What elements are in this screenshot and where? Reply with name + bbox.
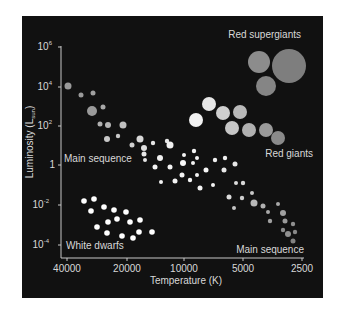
star-main-sequence [276, 202, 280, 206]
star-main-sequence [137, 136, 144, 143]
x-tick-label: 20000 [113, 263, 141, 274]
star-white-dwarf [114, 216, 120, 222]
star-main-sequence [151, 141, 155, 145]
x-tick-label: 40000 [53, 263, 81, 274]
star-main-sequence [291, 239, 296, 244]
x-axis-ticks: 40000200001000050002500 [53, 258, 313, 274]
star-main-sequence [233, 162, 238, 167]
star-giant [189, 113, 203, 127]
star-main-sequence [182, 153, 186, 157]
star-white-dwarf [149, 229, 155, 235]
star-main-sequence [251, 200, 258, 207]
x-axis-label: Temperature (K) [150, 275, 222, 286]
star-main-sequence [101, 105, 106, 110]
star-main-sequence [291, 222, 295, 226]
star-main-sequence [157, 155, 163, 161]
star-supergiant [272, 49, 306, 83]
star-main-sequence [213, 158, 217, 162]
star-white-dwarf [94, 224, 100, 230]
red-supergiant-stars [248, 49, 306, 96]
star-main-sequence [285, 231, 291, 237]
star-white-dwarf [105, 219, 111, 225]
x-tick-label: 5000 [232, 263, 255, 274]
red-giant-stars [189, 97, 285, 145]
star-main-sequence [120, 122, 127, 129]
y-axis-ticks: 106104102110-210-4 [33, 40, 61, 250]
star-main-sequence [281, 228, 285, 232]
label-red-giants: Red giants [265, 148, 313, 159]
star-main-sequence [204, 168, 209, 173]
star-main-sequence [195, 173, 199, 177]
star-main-sequence [141, 145, 147, 151]
star-main-sequence [191, 161, 195, 165]
star-giant [271, 131, 285, 145]
star-main-sequence [222, 168, 227, 173]
star-main-sequence [98, 122, 103, 127]
star-main-sequence [227, 195, 232, 200]
star-main-sequence [153, 165, 158, 170]
star-main-sequence [142, 152, 147, 157]
star-main-sequence [143, 158, 147, 162]
star-main-sequence [91, 91, 96, 96]
star-white-dwarf [127, 219, 133, 225]
y-tick-label: 10-2 [33, 198, 50, 210]
hr-diagram-chart: 106104102110-210-4 400002000010000500025… [0, 0, 338, 315]
label-white-dwarfs: White dwarfs [66, 240, 124, 251]
star-white-dwarf [111, 207, 117, 213]
star-main-sequence [180, 160, 186, 166]
star-giant [259, 123, 273, 137]
star-main-sequence [116, 134, 120, 138]
label-main-sequence-lower: Main sequence [236, 244, 304, 255]
star-main-sequence [250, 191, 254, 195]
star-main-sequence [283, 219, 288, 224]
y-tick-label: 106 [38, 40, 53, 52]
star-main-sequence [280, 210, 286, 216]
star-supergiant [248, 51, 270, 73]
star-main-sequence [293, 230, 297, 234]
star-main-sequence [234, 181, 238, 185]
star-white-dwarf [91, 196, 97, 202]
star-main-sequence [223, 156, 227, 160]
label-main-sequence-upper: Main sequence [64, 153, 132, 164]
star-main-sequence [168, 165, 173, 170]
star-main-sequence [195, 156, 199, 160]
star-white-dwarf [123, 209, 129, 215]
star-main-sequence [180, 173, 185, 178]
star-main-sequence [105, 122, 111, 128]
star-supergiant [256, 76, 276, 96]
star-main-sequence [211, 183, 215, 187]
star-main-sequence [130, 143, 135, 148]
star-white-dwarf [137, 217, 143, 223]
y-tick-label: 10-4 [33, 238, 50, 250]
star-giant [216, 106, 230, 120]
y-tick-label: 1 [49, 159, 55, 170]
white-dwarf-stars [81, 196, 155, 241]
star-white-dwarf [104, 230, 110, 236]
star-main-sequence [173, 179, 178, 184]
star-main-sequence [159, 180, 163, 184]
x-tick-label: 2500 [291, 263, 314, 274]
star-white-dwarf [101, 204, 107, 210]
y-tick-label: 102 [38, 119, 53, 131]
star-white-dwarf [81, 198, 87, 204]
star-main-sequence [87, 106, 97, 116]
star-main-sequence [261, 204, 266, 209]
star-giant [242, 123, 256, 137]
star-main-sequence [188, 178, 192, 182]
y-tick-label: 104 [38, 80, 53, 92]
star-main-sequence [266, 210, 270, 214]
star-giant [225, 121, 239, 135]
label-red-supergiants: Red supergiants [228, 29, 301, 40]
star-main-sequence [232, 206, 236, 210]
star-main-sequence [104, 136, 110, 142]
star-giant [202, 97, 216, 111]
star-main-sequence [79, 93, 84, 98]
star-main-sequence [240, 196, 244, 200]
star-main-sequence [167, 142, 174, 149]
star-giant [233, 105, 247, 119]
y-axis-label: Luminosity (Lsun) [24, 106, 36, 179]
star-main-sequence [192, 149, 196, 153]
star-main-sequence [268, 219, 272, 223]
star-main-sequence [241, 181, 245, 185]
star-main-sequence [65, 83, 72, 90]
